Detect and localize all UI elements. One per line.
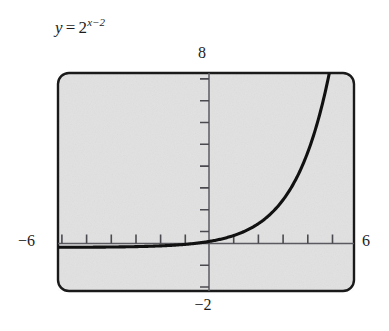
plot-background <box>58 73 354 291</box>
graph-figure <box>0 0 389 331</box>
